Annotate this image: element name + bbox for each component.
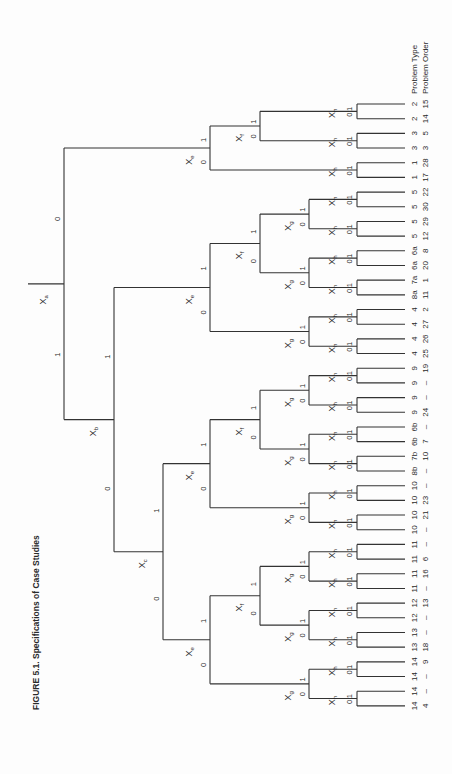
leaf-problem-type: 11 [410, 569, 419, 578]
branch-bit-label: 1 [249, 120, 258, 124]
leaf-problem-type: 4 [410, 321, 419, 326]
figure-caption: FIGURE 5.1. Specifications of Case Studi… [31, 535, 41, 710]
tree-labels: 10Xh10Xh10Xf10Xh10Xe10Xh10Xh10Xg10Xh10Xh… [38, 107, 354, 705]
leaf-problem-type: 5 [410, 233, 419, 238]
node-label-xh: Xh [327, 285, 338, 294]
leaf-problem-order: – [421, 674, 430, 679]
node-label-xh: Xh [327, 549, 338, 558]
branch-bit-label: 0 [298, 281, 307, 285]
leaf-problem-order: 18 [421, 642, 430, 651]
branch-bit-label: 1 [103, 354, 112, 358]
branch-bit-label: 0 [298, 575, 307, 579]
branch-bit-label: 1 [345, 606, 354, 610]
branch-bit-label: 1 [345, 107, 354, 111]
branch-bit-label: 0 [345, 524, 354, 528]
leaf-problem-type: 6a [410, 246, 419, 255]
node-label-xh: Xh [327, 637, 338, 646]
leaf-problem-type: 10 [410, 525, 419, 534]
leaf-problem-type: 4 [410, 336, 419, 341]
leaf-problem-order: 12 [421, 231, 430, 240]
header-problem-order: Problem Order [421, 41, 430, 94]
leaf-problem-order: 19 [421, 363, 430, 372]
node-label-xg: Xg [283, 691, 294, 700]
leaf-problem-order: 22 [421, 187, 430, 196]
leaf-problem-order: – [421, 630, 430, 635]
branch-bit-label: 0 [345, 670, 354, 674]
branch-bit-label: 0 [345, 700, 354, 704]
node-label-xh: Xh [327, 402, 338, 411]
leaf-problem-type: 6b [410, 437, 419, 446]
branch-bit-label: 0 [53, 217, 62, 221]
leaf-problem-order: 3 [421, 145, 430, 150]
branch-bit-label: 1 [152, 509, 161, 513]
leaf-problem-order: – [421, 527, 430, 532]
branch-bit-label: 1 [345, 489, 354, 493]
node-label-xa: Xa [38, 294, 49, 304]
branch-bit-label: 1 [249, 406, 258, 410]
node-label-xf: Xf [234, 251, 245, 259]
branch-bit-label: 1 [199, 443, 208, 447]
node-label-xh: Xh [327, 138, 338, 147]
leaf-problem-type: 8b [410, 466, 419, 475]
branch-bit-label: 1 [298, 619, 307, 623]
branch-bit-label: 1 [298, 560, 307, 564]
leaf-problem-order: 14 [421, 114, 430, 123]
leaf-problem-order: – [421, 380, 430, 385]
node-label-xe: Xe [184, 470, 195, 480]
node-label-xg: Xg [283, 280, 294, 289]
leaf-problem-order: 13 [421, 598, 430, 607]
leaf-problem-type: 1 [410, 175, 419, 180]
leaf-problem-order: 29 [421, 216, 430, 225]
leaf-problem-order: 7 [421, 439, 430, 444]
leaf-problem-type: 1 [410, 160, 419, 165]
leaf-problem-order: 8 [421, 248, 430, 253]
branch-bit-label: 0 [345, 377, 354, 381]
branch-bit-label: 0 [345, 171, 354, 175]
branch-bit-label: 0 [345, 436, 354, 440]
leaf-problem-order: – [421, 424, 430, 429]
leaf-problem-type: 10 [410, 481, 419, 490]
branch-bit-label: 1 [298, 443, 307, 447]
branch-bit-label: 0 [345, 347, 354, 351]
branch-bit-label: 0 [249, 435, 258, 439]
leaf-problem-type: 12 [410, 598, 419, 607]
branch-bit-label: 0 [298, 516, 307, 520]
branch-bit-label: 0 [103, 487, 112, 491]
branch-bit-label: 1 [345, 694, 354, 698]
leaf-problem-type: 14 [410, 701, 419, 710]
branch-bit-label: 1 [199, 266, 208, 270]
leaf-problem-order: 10 [421, 451, 430, 460]
leaf-problem-type: 10 [410, 510, 419, 519]
leaf-problem-order: 5 [421, 131, 430, 136]
node-label-xg: Xg [283, 221, 294, 230]
branch-bit-label: 1 [345, 136, 354, 140]
leaf-problem-type: 5 [410, 219, 419, 224]
branch-bit-label: 0 [298, 633, 307, 637]
header-problem-type: Problem Type [410, 44, 419, 94]
branch-bit-label: 1 [345, 430, 354, 434]
leaf-problem-order: – [421, 542, 430, 547]
branch-bit-label: 0 [345, 113, 354, 117]
branch-bit-label: 0 [345, 465, 354, 469]
branch-bit-label: 1 [345, 166, 354, 170]
branch-bit-label: 0 [199, 310, 208, 314]
branch-bit-label: 0 [199, 160, 208, 164]
leaf-problem-order: 26 [421, 334, 430, 343]
leaf-problem-order: 9 [421, 659, 430, 664]
leaf-problem-order: 15 [421, 99, 430, 108]
leaf-problem-type: 10 [410, 495, 419, 504]
leaf-problem-order: 4 [421, 703, 430, 708]
node-label-xh: Xh [327, 432, 338, 441]
branch-bit-label: 0 [249, 611, 258, 615]
leaf-problem-order: – [421, 586, 430, 591]
leaf-problem-order: 6 [421, 556, 430, 561]
leaf-problem-type: 3 [410, 131, 419, 136]
node-label-xh: Xh [327, 344, 338, 353]
leaf-problem-type: 9 [410, 395, 419, 400]
branch-bit-label: 1 [53, 353, 62, 357]
branch-bit-label: 0 [345, 641, 354, 645]
branch-bit-label: 1 [345, 518, 354, 522]
branch-bit-label: 1 [298, 266, 307, 270]
leaf-problem-type: 5 [410, 204, 419, 209]
branch-bit-label: 1 [345, 459, 354, 463]
